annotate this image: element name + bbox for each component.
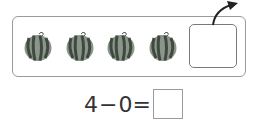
- curved-arrow-up-right-icon: [205, 0, 245, 28]
- watermelon-icon: [23, 30, 53, 62]
- watermelon-icon: [148, 30, 178, 62]
- minus-operator: −: [99, 92, 117, 117]
- watermelon-icon: [106, 30, 136, 62]
- right-operand: 0: [118, 92, 132, 117]
- left-operand: 4: [84, 92, 98, 117]
- watermelon-icon: [65, 30, 95, 62]
- equals-sign: =: [132, 92, 150, 117]
- answer-input-box[interactable]: [153, 89, 183, 119]
- equation: 4 − 0 =: [84, 88, 183, 120]
- empty-slot-box: [189, 24, 237, 68]
